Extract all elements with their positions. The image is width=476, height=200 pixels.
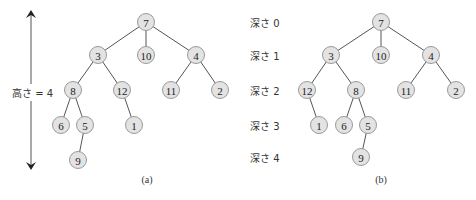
tree-node: 8 — [65, 82, 82, 99]
node-value: 9 — [75, 155, 81, 167]
tree-a-edges — [61, 22, 220, 160]
tree-node: 6 — [53, 117, 70, 134]
depth-label: 深さ 2 — [250, 83, 280, 98]
tree-node: 9 — [70, 152, 87, 169]
node-value: 3 — [95, 50, 101, 62]
tree-node: 7 — [373, 14, 390, 31]
tree-node: 10 — [373, 47, 390, 64]
node-value: 10 — [376, 50, 388, 62]
node-value: 11 — [401, 85, 412, 97]
node-value: 11 — [166, 85, 177, 97]
node-value: 4 — [428, 50, 434, 62]
tree-node: 3 — [323, 47, 340, 64]
depth-label: 深さ 1 — [250, 48, 280, 63]
caption-b: (b) — [375, 174, 387, 185]
node-value: 1 — [316, 120, 322, 132]
tree-node: 2 — [212, 82, 229, 99]
tree-node: 9 — [353, 149, 370, 166]
node-value: 6 — [58, 120, 64, 132]
tree-a-nodes: 731048121126519 — [53, 14, 229, 169]
tree-b-edges — [307, 22, 456, 157]
caption-a: (a) — [141, 174, 152, 185]
node-value: 12 — [117, 85, 128, 97]
depth-label: 深さ 3 — [250, 118, 280, 133]
node-value: 7 — [143, 17, 149, 29]
node-value: 9 — [358, 152, 364, 164]
node-value: 2 — [453, 85, 459, 97]
tree-node: 7 — [138, 14, 155, 31]
tree-diagram: 731048121126519 731041281121659 — [0, 0, 476, 200]
node-value: 1 — [131, 120, 137, 132]
tree-node: 2 — [448, 82, 465, 99]
tree-node: 4 — [423, 47, 440, 64]
tree-node: 3 — [90, 47, 107, 64]
depth-label: 深さ 0 — [250, 15, 280, 30]
tree-node: 12 — [299, 82, 316, 99]
tree-node: 8 — [348, 82, 365, 99]
tree-node: 10 — [138, 47, 155, 64]
node-value: 8 — [353, 85, 359, 97]
tree-node: 5 — [77, 117, 94, 134]
tree-node: 11 — [398, 82, 415, 99]
tree-node: 11 — [163, 82, 180, 99]
node-value: 10 — [141, 50, 153, 62]
node-value: 5 — [82, 120, 88, 132]
tree-node: 1 — [311, 117, 328, 134]
depth-label: 深さ 4 — [250, 150, 280, 165]
height-label: 高さ = 4 — [12, 84, 53, 101]
tree-node: 5 — [360, 117, 377, 134]
node-value: 5 — [365, 120, 371, 132]
tree-node: 4 — [188, 47, 205, 64]
node-value: 2 — [217, 85, 223, 97]
node-value: 3 — [328, 50, 334, 62]
node-value: 6 — [341, 120, 347, 132]
node-value: 4 — [193, 50, 199, 62]
tree-node: 12 — [114, 82, 131, 99]
node-value: 12 — [302, 85, 313, 97]
node-value: 8 — [70, 85, 76, 97]
tree-node: 1 — [126, 117, 143, 134]
tree-node: 6 — [336, 117, 353, 134]
node-value: 7 — [378, 17, 384, 29]
